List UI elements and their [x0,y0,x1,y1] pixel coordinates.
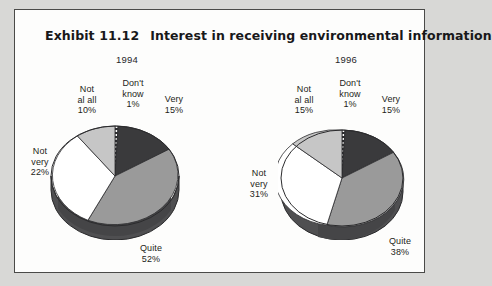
chart-year-label-1994: 1994 [97,54,157,65]
pie-label-very-1996: Very 15% [374,94,408,115]
pie-label-not-at-all-1994: Not al all 10% [67,84,107,116]
pie-label-quite-1994: Quite 52% [131,243,171,264]
exhibit-frame: Exhibit 11.12Interest in receiving envir… [14,9,425,273]
pie-label-dont-know-1994: Don't know 1% [111,78,155,110]
pie-chart-1994 [49,112,181,240]
pie-svg-1996 [278,116,406,240]
pie-panel-1994: 1994 [23,50,228,270]
exhibit-title-text: Interest in receiving environmental info… [150,28,492,43]
pie-label-dont-know-1996: Don't know 1% [328,78,372,110]
exhibit-title: Exhibit 11.12Interest in receiving envir… [45,28,492,43]
exhibit-number: Exhibit 11.12 [45,28,139,43]
pie-label-not-at-all-1996: Not al all 15% [284,84,324,116]
pie-label-quite-1996: Quite 38% [380,236,420,257]
pie-label-very-1994: Very 15% [157,94,191,115]
pie-chart-1996 [278,116,406,240]
pie-label-not-very-1994: Not very 22% [23,146,57,178]
pie-panel-1996: 1996 [228,50,426,270]
pie-label-not-very-1996: Not very 31% [242,168,276,200]
chart-year-label-1996: 1996 [316,54,376,65]
pie-svg-1994 [49,112,181,240]
